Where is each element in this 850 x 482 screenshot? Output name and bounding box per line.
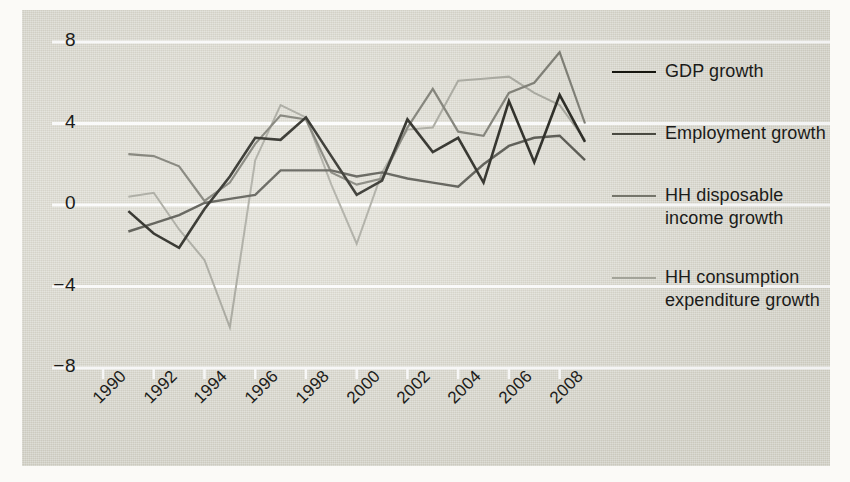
- legend-item[interactable]: Employment growth: [612, 122, 826, 145]
- legend-item[interactable]: HH disposableincome growth: [612, 184, 783, 230]
- legend-label: HH consumptionexpenditure growth: [665, 266, 820, 312]
- series-line: [128, 52, 585, 201]
- series-line: [128, 95, 585, 248]
- legend-item[interactable]: HH consumptionexpenditure growth: [612, 266, 820, 312]
- y-axis-tick-label: 8: [36, 29, 76, 51]
- y-axis-tick-label: 4: [36, 111, 76, 133]
- legend-item[interactable]: GDP growth: [612, 60, 764, 83]
- legend-label: Employment growth: [665, 122, 826, 145]
- legend-swatch-line-icon: [612, 133, 656, 135]
- legend-label: HH disposableincome growth: [665, 184, 783, 230]
- y-axis-tick-label: 0: [36, 192, 76, 214]
- legend-swatch-line-icon: [612, 277, 656, 279]
- legend-label: GDP growth: [665, 60, 764, 83]
- y-axis-tick-label: −4: [36, 274, 76, 296]
- y-axis-tick-label: −8: [36, 355, 76, 377]
- chart-figure: 840−4−8 19901992199419961998200020022004…: [0, 0, 850, 482]
- legend-swatch-line-icon: [612, 195, 656, 197]
- series-line: [128, 77, 585, 328]
- legend-swatch-line-icon: [612, 71, 656, 73]
